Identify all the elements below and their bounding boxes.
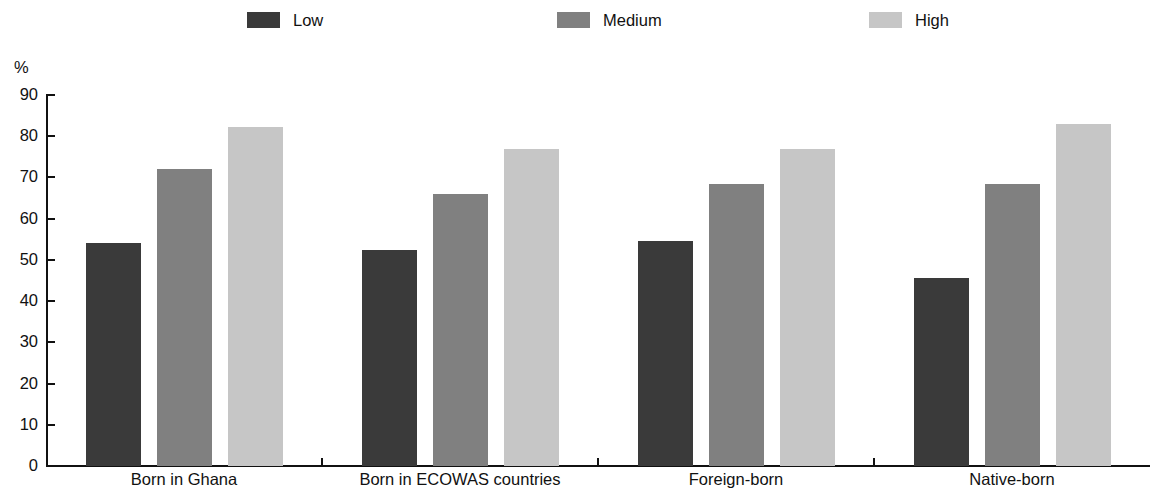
bar-low-3 — [638, 241, 693, 466]
x-axis-category-label: Born in Ghana — [46, 470, 322, 489]
plot-area: % 9080706050403020100 Born in GhanaBorn … — [0, 0, 1153, 493]
bar-medium-4 — [985, 184, 1040, 466]
bar-high-1 — [228, 127, 283, 466]
bar-medium-1 — [157, 169, 212, 466]
x-axis-category-label: Native-born — [874, 470, 1150, 489]
bar-high-2 — [504, 149, 559, 466]
x-axis-category-label: Foreign-born — [598, 470, 874, 489]
bar-chart: Low Medium High % 9080706050403020100 Bo… — [0, 0, 1153, 493]
bar-high-3 — [780, 149, 835, 466]
bars-layer — [0, 0, 1153, 466]
bar-low-4 — [914, 278, 969, 466]
bar-medium-3 — [709, 184, 764, 466]
bar-medium-2 — [433, 194, 488, 466]
x-axis-category-label: Born in ECOWAS countries — [322, 470, 598, 489]
bar-low-1 — [86, 243, 141, 466]
bar-low-2 — [362, 250, 417, 466]
bar-high-4 — [1056, 124, 1111, 466]
